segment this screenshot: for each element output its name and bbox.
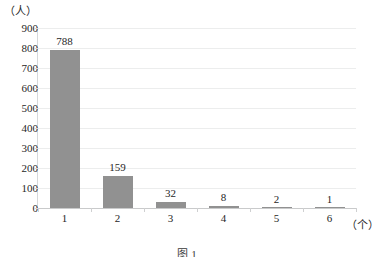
x-tick-label: 5: [274, 212, 280, 224]
bar-value-label: 1: [327, 193, 333, 205]
x-tick-mark: [303, 208, 304, 212]
x-axis-unit-label: （个）: [346, 216, 374, 232]
x-tick-label: 3: [168, 212, 174, 224]
x-tick-label: 2: [115, 212, 121, 224]
bar: [103, 176, 133, 208]
bar: [262, 207, 292, 208]
bar-value-label: 2: [274, 193, 280, 205]
x-tick-mark: [144, 208, 145, 212]
x-tick-mark: [38, 208, 39, 212]
bar-value-label: 159: [109, 161, 126, 173]
x-tick-label: 1: [62, 212, 68, 224]
bar: [156, 202, 186, 208]
x-tick-mark: [250, 208, 251, 212]
bar-value-label: 8: [221, 191, 227, 203]
x-tick-label: 4: [221, 212, 227, 224]
plot-area: [38, 28, 356, 208]
bar-value-label: 788: [56, 35, 73, 47]
x-tick-mark: [91, 208, 92, 212]
bar: [209, 206, 239, 208]
bar-chart: （人） （个） 0100200300400500600700800900 788…: [0, 0, 374, 257]
x-tick-label: 6: [327, 212, 333, 224]
figure-caption: 图 1: [0, 248, 374, 257]
bar-value-label: 32: [165, 187, 176, 199]
bar: [50, 50, 80, 208]
x-tick-mark: [197, 208, 198, 212]
x-tick-mark: [356, 208, 357, 212]
y-axis-unit-label: （人）: [4, 2, 37, 18]
bar: [315, 207, 345, 208]
